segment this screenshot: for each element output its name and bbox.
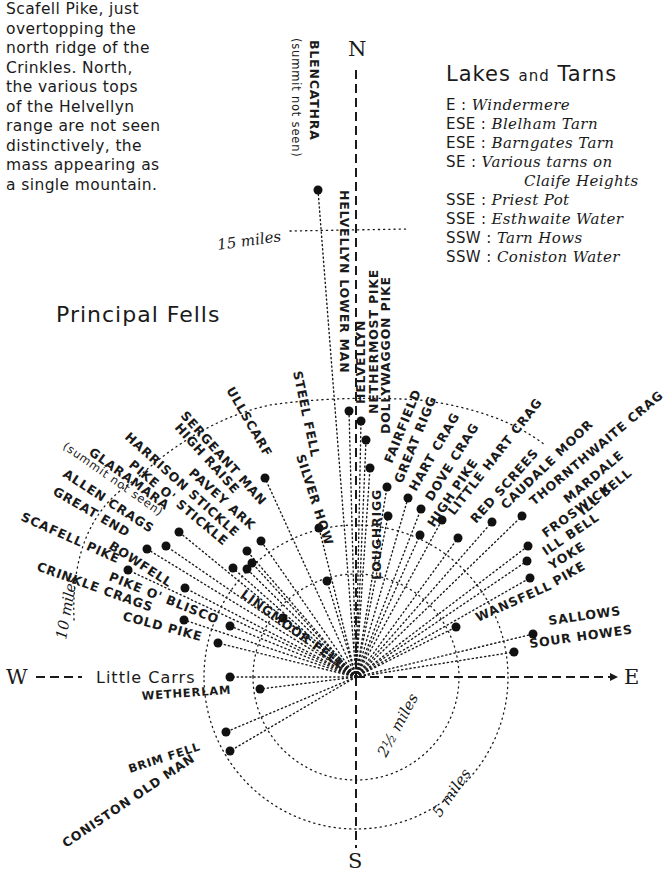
arrow-east-icon — [610, 673, 618, 681]
label-lingmoor-fell: LINGMOOR FELL — [238, 586, 347, 671]
label-dollywaggon-pike: DOLLYWAGGON PIKE — [378, 276, 393, 434]
label-helvellyn-lower-man: HELVELLYN LOWER MAN — [337, 190, 352, 374]
label-little-carrs: Little Carrs — [96, 668, 195, 687]
label-5-miles: 5 miles — [429, 765, 475, 820]
label-blencathra-note: (summit not seen) — [289, 38, 303, 158]
fell-labels: BLENCATHRA (summit not seen) HELVELLYN L… — [19, 38, 666, 850]
label-blencathra: BLENCATHRA — [307, 40, 322, 141]
label-steel-fell: STEEL FELL — [290, 370, 323, 459]
compass-s: S — [348, 849, 362, 870]
fell-direction-diagram: N S E W 15 miles 10 miles 2½ miles 5 mil… — [0, 0, 666, 870]
label-ullscarf: ULLSCARF — [223, 384, 275, 459]
compass-e: E — [624, 665, 639, 689]
label-loughrigg: LOUGHRIGG — [369, 489, 384, 580]
label-wansfell: WANSFELL — [473, 578, 554, 625]
label-15-miles: 15 miles — [216, 227, 282, 254]
label-sour-howes: SOUR HOWES — [528, 622, 633, 651]
label-2-5-miles: 2½ miles — [373, 690, 422, 761]
compass-w: W — [6, 665, 28, 689]
label-silver-how: SILVER HOW — [293, 452, 337, 547]
compass-n: N — [348, 37, 366, 61]
